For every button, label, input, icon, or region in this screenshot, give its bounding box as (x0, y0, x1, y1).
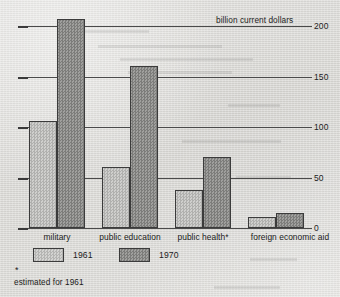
ytick-label-200: 200 (314, 21, 328, 31)
category-label-military: military (29, 232, 85, 242)
ytick-label-100: 100 (314, 122, 328, 132)
tick-stub-50 (18, 178, 28, 180)
legend-entry-1961[interactable]: 1961 (33, 248, 93, 262)
ytick-label-50: 50 (314, 173, 324, 183)
axis-unit-label: billion current dollars (216, 15, 293, 25)
axis-baseline-0 (18, 228, 312, 229)
bar-military-1970[interactable] (57, 19, 85, 228)
bar-military-1961[interactable] (29, 121, 57, 228)
footnote-asterisk-marker: * (15, 267, 19, 273)
tick-stub-0 (18, 228, 28, 230)
tick-stub-100 (18, 127, 28, 129)
bar-foreign-economic-aid-1961[interactable] (248, 217, 276, 228)
tick-stub-150 (18, 77, 28, 79)
category-label-foreign-economic-aid: foreign economic aid (228, 232, 340, 242)
legend-swatch-1961 (33, 248, 64, 262)
bar-public-health-1970[interactable] (203, 157, 231, 228)
bar-public-health-1961[interactable] (175, 190, 203, 228)
footnote-text: estimated for 1961 (14, 278, 84, 287)
legend-entry-1970[interactable]: 1970 (119, 248, 179, 262)
legend-label-1970: 1970 (159, 250, 179, 260)
ytick-label-150: 150 (314, 72, 328, 82)
legend: 1961 1970 (0, 248, 340, 272)
legend-label-1961: 1961 (73, 250, 93, 260)
tick-stub-200 (18, 26, 28, 28)
bar-public-education-1961[interactable] (102, 167, 130, 228)
legend-swatch-1970 (119, 248, 150, 262)
plot-area: billion current dollars 200 150 100 50 0… (0, 0, 340, 240)
bar-foreign-economic-aid-1970[interactable] (276, 213, 304, 228)
bar-chart: billion current dollars 200 150 100 50 0… (0, 0, 340, 297)
bar-public-education-1970[interactable] (130, 66, 158, 228)
